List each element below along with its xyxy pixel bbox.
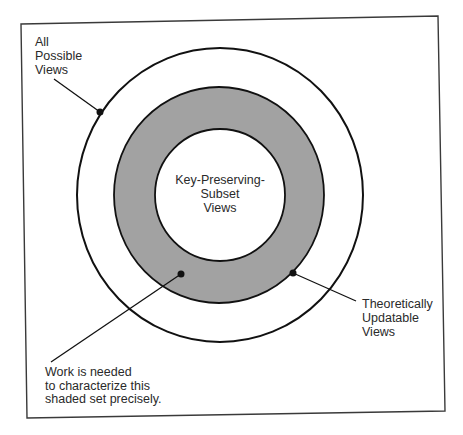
label-line: Views [160,201,280,215]
label-line: Subset [160,187,280,201]
annotation-work-needed: Work is needed to characterize this shad… [45,366,162,407]
label-all-possible-views: All Possible Views [35,35,82,77]
label-line: Key-Preserving- [160,173,280,187]
label-line: Updatable [362,311,433,325]
leader-dot-annotation [178,271,185,278]
label-line: All [35,35,82,49]
label-line: Possible [35,49,82,63]
annotation-line: to characterize this [45,380,162,394]
label-theoretically-updatable-views: Theoretically Updatable Views [362,297,433,339]
annotation-line: Work is needed [45,366,162,380]
label-line: Views [362,325,433,339]
leader-dot-all-possible [97,109,104,116]
label-line: Theoretically [362,297,433,311]
annotation-line: shaded set precisely. [45,393,162,407]
label-line: Views [35,63,82,77]
label-key-preserving-subset-views: Key-Preserving- Subset Views [160,173,280,215]
leader-dot-theoretically-updatable [290,270,297,277]
